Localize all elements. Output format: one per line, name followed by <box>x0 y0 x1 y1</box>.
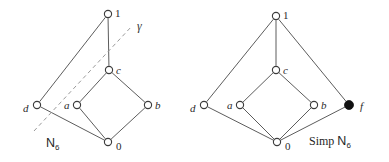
node-label-one: 1 <box>115 7 121 19</box>
node-label-a: a <box>64 99 70 111</box>
edge-c-b <box>112 73 144 102</box>
caption-base: N <box>337 134 346 148</box>
edge-d-zero <box>208 107 273 140</box>
node-label-a: a <box>227 99 233 111</box>
caption-base: N <box>46 136 55 150</box>
lattice-diagram-figure: 1cdab0γN61cdabf0Simp N6 <box>0 0 389 162</box>
caption-simp-n6: Simp N6 <box>309 134 351 150</box>
node-label-d: d <box>190 102 196 114</box>
edge-b-zero <box>111 108 144 139</box>
node-a-open[interactable] <box>236 101 243 108</box>
node-zero-open[interactable] <box>273 138 280 145</box>
edge-d-zero <box>41 107 104 140</box>
node-label-f: f <box>360 100 365 112</box>
caption-n6: N6 <box>46 136 60 152</box>
node-label-c: c <box>116 64 121 76</box>
diagram-simp-n6: 1cdabf0Simp N6 <box>190 9 365 152</box>
edge-c-b <box>279 73 310 102</box>
node-label-b: b <box>321 99 327 111</box>
diagram-n6: 1cdab0γN6 <box>23 7 161 152</box>
node-d-open[interactable] <box>200 101 207 108</box>
node-c-open[interactable] <box>272 66 279 73</box>
annotation-gamma: γ <box>137 19 142 33</box>
node-label-zero: 0 <box>285 140 291 152</box>
edge-c-a <box>243 73 272 102</box>
caption-subscript: 6 <box>346 141 351 150</box>
edge-one-c <box>108 19 109 66</box>
node-one-open[interactable] <box>272 12 279 19</box>
node-label-d: d <box>23 102 29 114</box>
caption-subscript: 6 <box>55 143 60 152</box>
edge-group <box>40 18 145 140</box>
node-c-open[interactable] <box>105 66 112 73</box>
node-b-open[interactable] <box>310 101 317 108</box>
edge-b-zero <box>280 108 311 139</box>
caption-prefix: Simp <box>309 134 337 148</box>
edge-d-one <box>40 18 105 102</box>
node-d-open[interactable] <box>33 101 40 108</box>
node-label-zero: 0 <box>116 140 122 152</box>
edge-group <box>207 20 346 140</box>
node-f-filled[interactable] <box>345 101 354 110</box>
node-zero-open[interactable] <box>104 138 111 145</box>
node-b-open[interactable] <box>144 101 151 108</box>
edge-a-zero <box>243 108 274 139</box>
node-a-open[interactable] <box>73 101 80 108</box>
node-label-b: b <box>155 99 161 111</box>
node-label-c: c <box>283 64 288 76</box>
node-one-open[interactable] <box>104 10 111 17</box>
dashed-line-gamma-line <box>34 26 132 131</box>
edge-one-f <box>279 20 346 102</box>
edge-d-one <box>207 20 273 102</box>
node-label-one: 1 <box>283 9 289 21</box>
